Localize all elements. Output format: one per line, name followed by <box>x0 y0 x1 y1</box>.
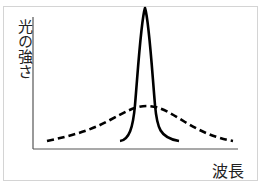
y-axis-label: 光の強さ <box>12 19 32 79</box>
x-axis-label: 波長 <box>212 158 244 182</box>
narrow-solid-peak <box>120 8 179 141</box>
broad-dashed-curve <box>47 106 233 141</box>
